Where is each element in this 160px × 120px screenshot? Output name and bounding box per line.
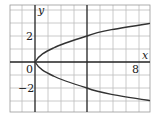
x-tick-8: 8 xyxy=(132,63,139,76)
x-axis-label: x xyxy=(142,49,149,62)
grid xyxy=(10,5,150,112)
origin-label: 0 xyxy=(26,63,33,76)
y-tick-2: 2 xyxy=(26,30,33,43)
y-tick-neg2: −2 xyxy=(18,82,34,95)
y-axis-label: y xyxy=(37,4,45,17)
parabola-chart: y x 0 8 2 −2 xyxy=(0,0,160,120)
plot-frame xyxy=(10,5,150,112)
